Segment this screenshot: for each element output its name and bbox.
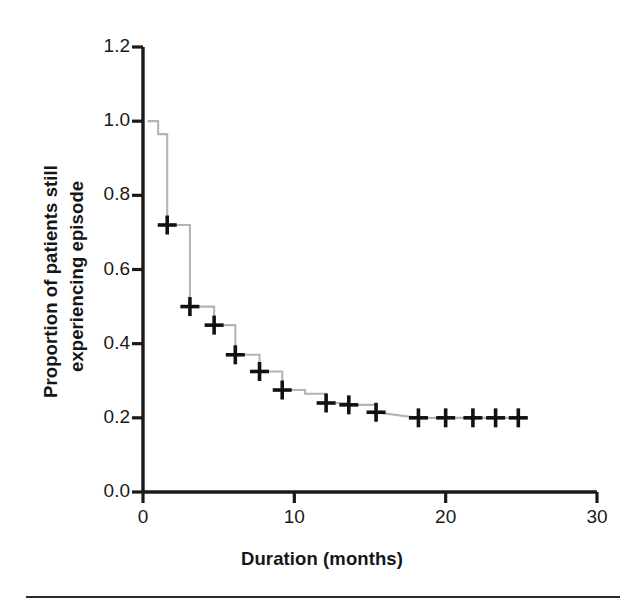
y-tick-label: 0.6 (74, 258, 130, 280)
censor-mark (180, 297, 199, 316)
censor-mark (205, 316, 224, 335)
censor-mark (317, 394, 336, 413)
censoring-marks-group (158, 216, 528, 428)
x-tick-label: 20 (426, 506, 466, 528)
axes-group (143, 47, 597, 492)
censor-mark (436, 408, 455, 427)
censor-mark (509, 408, 528, 427)
x-axis-label: Duration (months) (0, 548, 644, 570)
survival-step-curve (148, 121, 519, 418)
censor-mark (409, 408, 428, 427)
y-tick-label: 1.2 (74, 35, 130, 57)
censor-mark (486, 408, 505, 427)
y-tick-label: 0.0 (74, 480, 130, 502)
y-tick-label: 0.2 (74, 406, 130, 428)
x-tick-label: 30 (577, 506, 617, 528)
censor-mark (463, 408, 482, 427)
y-tick-label: 0.8 (74, 183, 130, 205)
kaplan-meier-figure: Proportion of patients still experiencin… (0, 0, 644, 613)
survival-plot (0, 0, 644, 613)
y-tick-label: 0.4 (74, 332, 130, 354)
censor-mark (250, 362, 269, 381)
footer-rule (26, 596, 620, 598)
x-tick-label: 10 (274, 506, 314, 528)
censor-mark (226, 345, 245, 364)
censor-mark (339, 395, 358, 414)
y-tick-label: 1.0 (74, 109, 130, 131)
x-tick-label: 0 (123, 506, 163, 528)
censor-mark (158, 216, 177, 235)
censor-mark (273, 381, 292, 400)
